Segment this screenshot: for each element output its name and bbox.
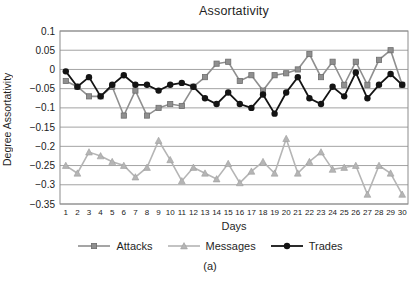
circle-marker-icon <box>167 82 173 88</box>
square-marker-icon <box>77 241 111 251</box>
triangle-marker-icon <box>225 160 232 166</box>
circle-marker-icon <box>121 72 127 78</box>
x-tick-label: 7 <box>133 208 138 217</box>
legend-item-attacks: Attacks <box>77 240 152 252</box>
circle-marker-icon <box>364 95 370 101</box>
triangle-marker-icon <box>399 191 406 197</box>
circle-marker-icon <box>213 101 219 107</box>
y-tick-label: −0.25 <box>30 160 56 171</box>
circle-marker-icon <box>155 87 161 93</box>
square-marker-icon <box>237 78 242 83</box>
y-tick-label: −0.3 <box>35 179 55 190</box>
circle-marker-icon <box>132 82 138 88</box>
y-tick-label: −0.05 <box>30 83 56 94</box>
circle-marker-icon <box>86 74 92 80</box>
square-marker-icon <box>202 75 207 80</box>
circle-marker-icon <box>387 71 393 77</box>
square-marker-icon <box>284 71 289 76</box>
square-marker-icon <box>156 105 161 110</box>
circle-marker-icon <box>237 101 243 107</box>
x-tick-label: 24 <box>328 208 337 217</box>
x-tick-label: 11 <box>178 208 187 217</box>
square-marker-icon <box>376 57 381 62</box>
triangle-marker-icon <box>144 164 151 170</box>
y-tick-label: 0.05 <box>36 45 56 56</box>
legend-label: Attacks <box>116 240 152 252</box>
triangle-marker-icon <box>202 170 209 176</box>
circle-marker-icon <box>306 95 312 101</box>
x-tick-label: 21 <box>293 208 302 217</box>
square-marker-icon <box>214 61 219 66</box>
square-marker-icon <box>272 73 277 78</box>
y-tick-label: −0.15 <box>30 122 56 133</box>
circle-marker-icon <box>271 110 277 116</box>
circle-marker-icon <box>202 95 208 101</box>
chart-plot-area: 0.10.050−0.05−0.1−0.15−0.2−0.25−0.3−0.35… <box>0 0 420 232</box>
circle-marker-icon <box>260 91 266 97</box>
triangle-marker-icon <box>283 135 290 141</box>
y-tick-label: 0.1 <box>41 26 55 37</box>
circle-marker-icon <box>376 82 382 88</box>
square-marker-icon <box>121 113 126 118</box>
legend: AttacksMessagesTrades <box>0 240 420 252</box>
x-tick-label: 2 <box>75 208 80 217</box>
x-tick-label: 27 <box>363 208 372 217</box>
circle-marker-icon <box>318 101 324 107</box>
square-marker-icon <box>226 59 231 64</box>
circle-marker-icon <box>63 68 69 74</box>
square-marker-icon <box>249 73 254 78</box>
y-tick-label: −0.35 <box>30 199 56 210</box>
circle-marker-icon <box>248 105 254 111</box>
circle-marker-icon <box>74 84 80 90</box>
x-tick-label: 9 <box>156 208 161 217</box>
x-tick-label: 12 <box>189 208 198 217</box>
x-tick-label: 14 <box>212 208 221 217</box>
triangle-marker-icon <box>260 158 267 164</box>
x-tick-label: 13 <box>201 208 210 217</box>
x-tick-label: 25 <box>340 208 349 217</box>
square-marker-icon <box>307 51 312 56</box>
x-tick-label: 1 <box>64 208 69 217</box>
triangle-marker-icon <box>318 149 325 155</box>
legend-label: Messages <box>206 240 256 252</box>
square-marker-icon <box>86 94 91 99</box>
square-marker-icon <box>318 75 323 80</box>
y-tick-label: −0.2 <box>35 141 55 152</box>
y-tick-label: 0 <box>49 64 55 75</box>
circle-marker-icon <box>144 82 150 88</box>
circle-marker-icon <box>341 93 347 99</box>
x-tick-label: 23 <box>317 208 326 217</box>
square-marker-icon <box>330 59 335 64</box>
square-marker-icon <box>342 82 347 87</box>
figure-caption: (a) <box>0 260 420 272</box>
circle-marker-icon <box>399 82 405 88</box>
series-line-trades <box>66 71 402 113</box>
square-marker-icon <box>295 67 300 72</box>
triangle-marker-icon <box>167 241 201 251</box>
x-tick-label: 5 <box>110 208 115 217</box>
plot-border <box>60 31 408 204</box>
circle-marker-icon <box>295 74 301 80</box>
triangle-marker-icon <box>86 149 93 155</box>
x-tick-label: 19 <box>270 208 279 217</box>
x-tick-label: 29 <box>386 208 395 217</box>
circle-marker-icon <box>179 80 185 86</box>
x-tick-label: 17 <box>247 208 256 217</box>
triangle-marker-icon <box>364 191 371 197</box>
circle-marker-icon <box>225 89 231 95</box>
circle-marker-icon <box>353 69 359 75</box>
circle-marker-icon <box>283 89 289 95</box>
x-tick-label: 28 <box>375 208 384 217</box>
circle-marker-icon <box>109 82 115 88</box>
x-tick-label: 3 <box>87 208 92 217</box>
circle-marker-icon <box>190 84 196 90</box>
x-tick-label: 20 <box>282 208 291 217</box>
x-tick-label: 10 <box>166 208 175 217</box>
y-tick-label: −0.1 <box>35 102 55 113</box>
x-tick-label: 16 <box>235 208 244 217</box>
square-marker-icon <box>168 101 173 106</box>
triangle-marker-icon <box>109 158 116 164</box>
circle-marker-icon <box>329 84 335 90</box>
figure: Assortativity Degree Assortativity 0.10.… <box>0 0 420 285</box>
x-tick-label: 15 <box>224 208 233 217</box>
